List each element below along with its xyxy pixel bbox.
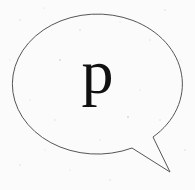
bubble-letter: p [0,40,195,104]
